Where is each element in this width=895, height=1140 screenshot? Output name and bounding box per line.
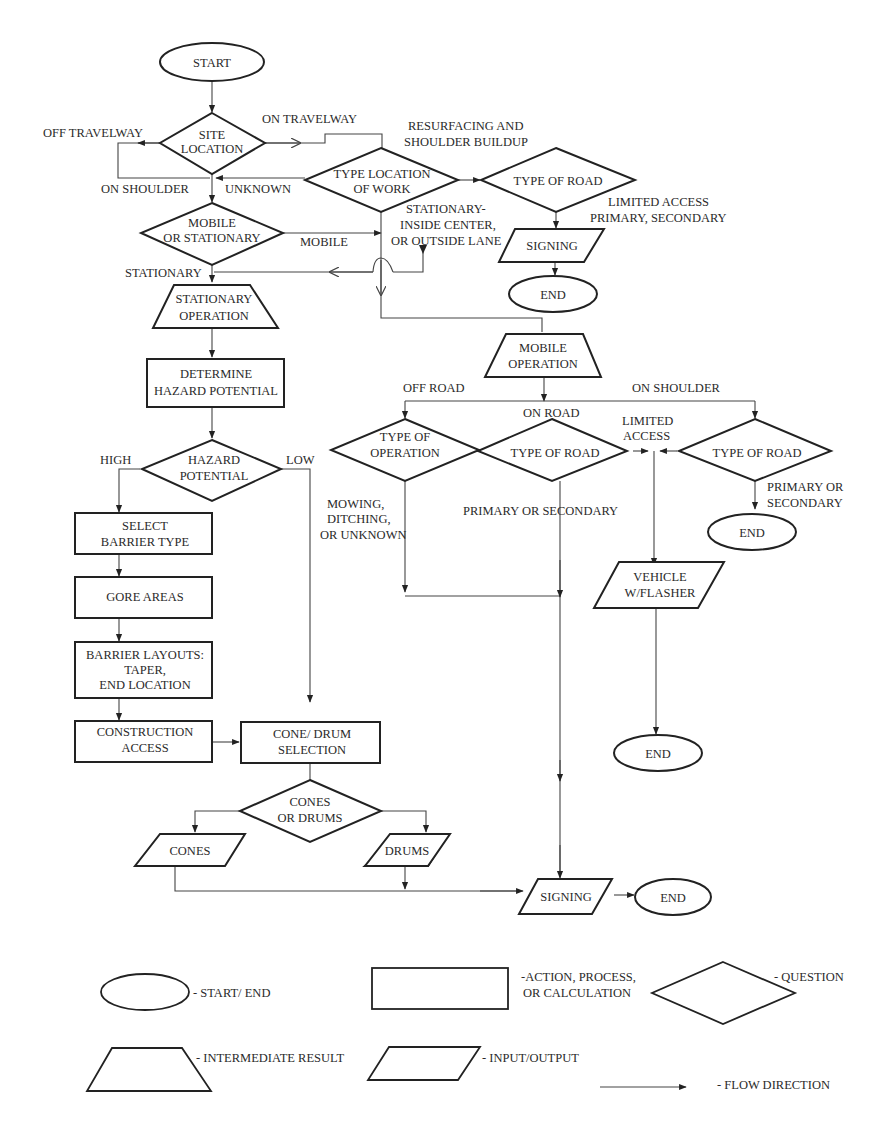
node-text: CONES — [170, 844, 211, 858]
legend-trapezoid-icon — [87, 1048, 211, 1091]
node-text: POTENTIAL — [180, 469, 249, 483]
start-label: START — [193, 56, 231, 70]
flowchart: START SITE LOCATION MOBILE OR STATIONARY… — [0, 0, 895, 1140]
type-of-operation-decision[interactable]: TYPE OF OPERATION — [331, 419, 479, 481]
node-text: END — [540, 288, 566, 302]
cone-drum-selection-process[interactable]: CONE/ DRUM SELECTION — [241, 722, 380, 763]
node-text: OR STATIONARY — [163, 231, 260, 245]
node-text: OPERATION — [370, 446, 439, 460]
node-text: LOCATION — [181, 142, 244, 156]
node-text: BARRIER TYPE — [101, 535, 190, 549]
label-primary-or-secondary: PRIMARY OR SECONDARY — [463, 504, 618, 518]
label-on-shoulder: ON SHOULDER — [101, 182, 190, 196]
node-text: CONSTRUCTION — [97, 725, 194, 739]
cones-or-drums-decision[interactable]: CONES OR DRUMS — [240, 780, 381, 842]
label-high: HIGH — [100, 453, 131, 467]
label-stationary: STATIONARY — [125, 266, 202, 280]
legend-label: -ACTION, PROCESS, — [521, 970, 636, 984]
node-text: SIGNING — [526, 239, 577, 253]
start-node[interactable]: START — [160, 43, 264, 81]
end-bottom-node[interactable]: END — [635, 879, 711, 915]
vehicle-flasher-io[interactable]: VEHICLE W/FLASHER — [594, 562, 724, 608]
node-text: DRUMS — [385, 844, 430, 858]
node-text: END — [739, 526, 765, 540]
stationary-operation-result[interactable]: STATIONARY OPERATION — [153, 285, 278, 328]
node-text: TYPE OF ROAD — [514, 174, 603, 188]
legend-intermediate: - INTERMEDIATE RESULT — [87, 1048, 345, 1091]
node-text: END LOCATION — [99, 678, 190, 692]
select-barrier-process[interactable]: SELECT BARRIER TYPE — [75, 513, 212, 554]
legend-parallelogram-icon — [368, 1047, 480, 1080]
end-top-node[interactable]: END — [509, 276, 597, 312]
label-limited-access: ACCESS — [623, 429, 670, 443]
label-limited-primary: PRIMARY, SECONDARY — [590, 211, 727, 225]
mobile-operation-result[interactable]: MOBILE OPERATION — [485, 334, 601, 377]
type-of-road-shoulder-decision[interactable]: TYPE OF ROAD — [679, 419, 831, 481]
barrier-layouts-process[interactable]: BARRIER LAYOUTS: TAPER, END LOCATION — [75, 642, 212, 698]
line-stationary-lane — [393, 245, 423, 272]
label-unknown: UNKNOWN — [225, 182, 291, 196]
node-text: OR DRUMS — [278, 811, 343, 825]
label-stationary-lane: OR OUTSIDE LANE — [391, 234, 502, 248]
legend-label: - INTERMEDIATE RESULT — [196, 1051, 345, 1065]
legend-ellipse-icon — [101, 974, 189, 1010]
node-text: SIGNING — [540, 890, 591, 904]
node-text: END — [645, 747, 671, 761]
legend-label: OR CALCULATION — [523, 986, 631, 1000]
node-text: SELECT — [122, 519, 168, 533]
node-text: TYPE OF ROAD — [713, 446, 802, 460]
legend-label: - FLOW DIRECTION — [717, 1078, 830, 1092]
node-text: TYPE LOCATION — [334, 167, 431, 181]
legend-input-output: - INPUT/OUTPUT — [368, 1047, 579, 1080]
node-text: HAZARD POTENTIAL — [154, 384, 278, 398]
signing-bottom-io[interactable]: SIGNING — [519, 879, 612, 914]
node-text: TYPE OF — [380, 430, 430, 444]
node-text: MOBILE — [188, 216, 236, 230]
label-on-shoulder-mobile: ON SHOULDER — [632, 381, 721, 395]
type-of-road-onroad-decision[interactable]: TYPE OF ROAD — [478, 419, 627, 481]
gore-areas-process[interactable]: GORE AREAS — [75, 577, 212, 618]
legend-start-end: - START/ END — [101, 974, 270, 1010]
site-location-decision[interactable]: SITE LOCATION — [160, 113, 265, 174]
label-limited-primary: LIMITED ACCESS — [608, 195, 709, 209]
determine-hazard-process[interactable]: DETERMINE HAZARD POTENTIAL — [147, 359, 284, 407]
drums-io[interactable]: DRUMS — [365, 834, 450, 866]
line-cones-down — [175, 866, 520, 891]
legend-rect-icon — [372, 968, 508, 1009]
node-text: ACCESS — [121, 741, 168, 755]
label-limited-access: LIMITED — [622, 414, 673, 428]
arrow-high — [119, 469, 140, 512]
node-text: CONES — [290, 795, 331, 809]
label-on-travelway: ON TRAVELWAY — [262, 112, 357, 126]
label-mobile: MOBILE — [300, 235, 348, 249]
label-resurfacing: RESURFACING AND — [408, 119, 523, 133]
line-hop — [373, 258, 393, 272]
node-text: GORE AREAS — [106, 590, 183, 604]
end-vehicle-node[interactable]: END — [614, 735, 702, 771]
label-on-road: ON ROAD — [523, 406, 580, 420]
node-text: W/FLASHER — [625, 586, 697, 600]
node-text: SELECTION — [278, 743, 346, 757]
mobile-or-stationary-decision[interactable]: MOBILE OR STATIONARY — [141, 203, 283, 265]
node-text: MOBILE — [519, 341, 567, 355]
construction-access-process[interactable]: CONSTRUCTION ACCESS — [75, 721, 212, 762]
legend-label: - QUESTION — [774, 970, 844, 984]
legend: - START/ END -ACTION, PROCESS, OR CALCUL… — [87, 962, 844, 1092]
legend-action: -ACTION, PROCESS, OR CALCULATION — [372, 968, 636, 1009]
label-mowing: OR UNKNOWN — [320, 528, 406, 542]
io-shape — [594, 562, 724, 608]
label-stationary-lane: STATIONARY- — [406, 202, 486, 216]
hazard-potential-decision[interactable]: HAZARD POTENTIAL — [142, 440, 281, 501]
node-text: END — [660, 891, 686, 905]
end-shoulder-node[interactable]: END — [708, 514, 796, 550]
arrow-low — [281, 469, 310, 702]
node-text: VEHICLE — [633, 570, 687, 584]
label-mowing: MOWING, — [327, 497, 384, 511]
signing-top-io[interactable]: SIGNING — [499, 229, 604, 262]
node-text: OPERATION — [179, 309, 248, 323]
line-on-travelway — [265, 134, 382, 148]
cones-io[interactable]: CONES — [135, 834, 245, 866]
arrow-to-drums — [381, 811, 426, 832]
label-off-road: OFF ROAD — [403, 381, 464, 395]
node-text: CONE/ DRUM — [273, 727, 351, 741]
